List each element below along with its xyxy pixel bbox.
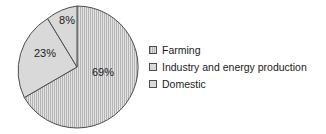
pie-label-domestic: 8%: [59, 14, 75, 26]
pie-chart-figure: 69% 23% 8% Farming Industry and energy p…: [0, 0, 326, 134]
legend-item-industry: Industry and energy production: [149, 58, 324, 75]
legend-swatch-icon-industry: [149, 63, 157, 71]
legend-label-domestic: Domestic: [162, 78, 206, 90]
legend-label-farming: Farming: [162, 44, 201, 56]
legend-label-industry: Industry and energy production: [162, 61, 307, 73]
legend-swatch-icon-domestic: [149, 80, 157, 88]
legend-item-domestic: Domestic: [149, 75, 324, 92]
pie-label-industry: 23%: [34, 47, 56, 59]
chart-legend: Farming Industry and energy production D…: [149, 41, 324, 92]
legend-swatch-icon-farming: [149, 46, 157, 54]
legend-item-farming: Farming: [149, 41, 324, 58]
pie-label-farming: 69%: [92, 66, 114, 78]
